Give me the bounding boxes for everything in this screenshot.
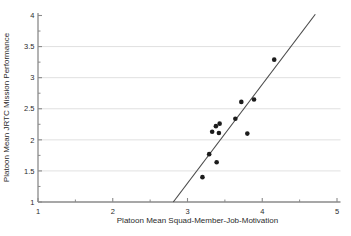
y-tick-label: 3.5 <box>24 42 34 51</box>
data-point <box>239 100 244 105</box>
trend-line <box>173 14 315 202</box>
y-tick-label: 1 <box>30 198 34 207</box>
data-point <box>210 129 215 134</box>
data-point <box>214 124 219 129</box>
data-point <box>252 97 257 102</box>
scatter-plot: 11.522.533.5412345 Platoon Mean Squad-Me… <box>0 0 351 236</box>
data-point <box>207 152 212 157</box>
x-tick-label: 5 <box>335 207 339 216</box>
x-tick-label: 2 <box>111 207 115 216</box>
data-points <box>200 57 276 179</box>
data-point <box>217 121 222 126</box>
y-tick-label: 2.5 <box>24 104 34 113</box>
y-tick-label: 2 <box>30 136 34 145</box>
y-tick-label: 1.5 <box>24 167 34 176</box>
data-point <box>217 131 222 136</box>
y-tick-label: 4 <box>30 11 34 20</box>
y-tick-label: 3 <box>30 73 34 82</box>
x-tick-label: 3 <box>185 207 189 216</box>
data-point <box>233 116 238 121</box>
scatter-chart-figure: 11.522.533.5412345 Platoon Mean Squad-Me… <box>0 0 351 236</box>
x-tick-label: 1 <box>36 207 40 216</box>
gridlines <box>39 47 341 171</box>
data-point <box>214 160 219 165</box>
y-axis-label: Platoon Mean JRTC Mission Performance <box>2 32 11 182</box>
data-point <box>200 175 205 180</box>
data-point <box>272 57 277 62</box>
x-tick-label: 4 <box>260 207 264 216</box>
data-point <box>245 131 250 136</box>
tick-labels: 11.522.533.5412345 <box>24 11 339 216</box>
x-axis-label: Platoon Mean Squad-Member-Job-Motivation <box>117 216 278 225</box>
